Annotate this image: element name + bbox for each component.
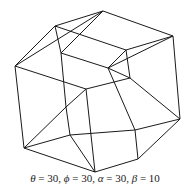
edge-19 — [108, 68, 135, 130]
edge-18 — [61, 53, 66, 107]
caption: θ = 30, ϕ = 30, α = 30, β = 10 — [0, 172, 190, 184]
edge-11 — [126, 50, 130, 78]
edge-12 — [138, 119, 180, 159]
edge-20 — [66, 107, 70, 135]
theta-value: = 30, — [36, 172, 64, 184]
edge-14 — [86, 78, 130, 89]
edge-13 — [95, 159, 138, 172]
edge-4 — [15, 66, 86, 89]
edge-29 — [135, 119, 180, 130]
tesseract-diagram — [0, 0, 190, 190]
alpha-value: = 30, — [103, 172, 131, 184]
edge-24 — [15, 26, 55, 66]
edge-8 — [15, 11, 103, 66]
edge-21 — [70, 130, 135, 135]
edge-7 — [24, 148, 95, 172]
beta-value: = 10 — [137, 172, 160, 184]
phi-value: = 30, — [69, 172, 97, 184]
edge-22 — [66, 89, 86, 107]
edge-9 — [173, 36, 180, 119]
edge-16 — [61, 53, 108, 68]
edge-5 — [15, 66, 24, 148]
edge-6 — [86, 89, 95, 172]
edge-25 — [108, 50, 126, 68]
edge-10 — [55, 26, 61, 53]
edge-27 — [135, 130, 138, 159]
edge-0 — [103, 11, 173, 36]
edge-31 — [108, 36, 173, 68]
edge-15 — [130, 78, 180, 119]
edge-3 — [55, 26, 126, 50]
